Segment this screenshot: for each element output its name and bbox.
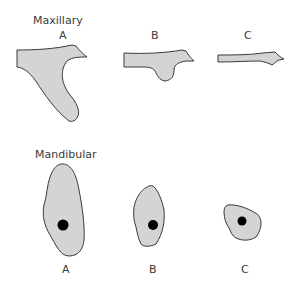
maxillary-shape-a [17, 45, 87, 121]
cross-section-diagram [0, 0, 301, 287]
mandibular-dot-a [58, 220, 69, 231]
mandibular-dot-c [238, 217, 247, 226]
mandibular-shape-a [43, 164, 84, 256]
mandibular-dot-b [148, 220, 158, 230]
mandibular-shape-b [134, 186, 165, 247]
maxillary-shape-b [124, 50, 194, 81]
maxillary-shape-c [218, 52, 284, 65]
